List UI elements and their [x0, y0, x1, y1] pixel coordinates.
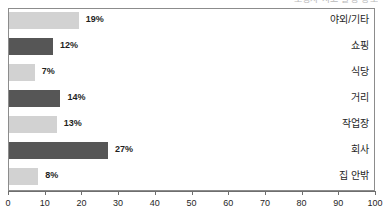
bar — [9, 38, 53, 55]
bar — [9, 142, 108, 159]
category-label: 쇼핑 — [351, 39, 369, 53]
x-tick-label: 20 — [76, 197, 86, 209]
x-tick — [155, 191, 156, 195]
category-label: 식당 — [351, 65, 369, 79]
x-tick — [45, 191, 46, 195]
bar-value-label: 19% — [86, 13, 104, 26]
x-tick — [228, 191, 229, 195]
category-label: 회사 — [351, 143, 369, 157]
x-tick — [265, 191, 266, 195]
bar — [9, 64, 35, 81]
x-tick — [302, 191, 303, 195]
x-tick-label: 100 — [367, 197, 382, 209]
x-tick — [8, 191, 9, 195]
chart-row: 27%회사 — [9, 139, 375, 165]
bar — [9, 168, 38, 185]
category-label: 작업장 — [342, 117, 369, 131]
bar-value-label: 13% — [64, 117, 82, 130]
bar-value-label: 27% — [115, 143, 133, 156]
x-tick — [192, 191, 193, 195]
bar-value-label: 7% — [42, 65, 55, 78]
x-tick — [375, 191, 376, 195]
horizontal-bar-chart: 보행자 사고 발생 장소 19%야외/기타12%쇼핑7%식당14%거리13%작업… — [0, 0, 386, 213]
category-label: 거리 — [351, 91, 369, 105]
x-tick-label: 50 — [186, 197, 196, 209]
x-tick-label: 90 — [333, 197, 343, 209]
chart-row: 14%거리 — [9, 87, 375, 113]
x-tick-label: 0 — [5, 197, 10, 209]
chart-row: 8%집 안밖 — [9, 165, 375, 191]
x-tick-label: 30 — [113, 197, 123, 209]
x-tick — [338, 191, 339, 195]
chart-row: 19%야외/기타 — [9, 9, 375, 35]
chart-row: 12%쇼핑 — [9, 35, 375, 61]
x-tick-label: 40 — [150, 197, 160, 209]
x-tick-label: 80 — [297, 197, 307, 209]
clipped-header-text: 보행자 사고 발생 장소 — [258, 0, 378, 6]
x-tick — [118, 191, 119, 195]
bar-value-label: 12% — [60, 39, 78, 52]
bar — [9, 116, 57, 133]
chart-row: 13%작업장 — [9, 113, 375, 139]
bar-rows: 19%야외/기타12%쇼핑7%식당14%거리13%작업장27%회사8%집 안밖 — [9, 9, 375, 191]
category-label: 집 안밖 — [339, 169, 369, 183]
x-tick-label: 70 — [260, 197, 270, 209]
bar-value-label: 14% — [67, 91, 85, 104]
x-tick-label: 60 — [223, 197, 233, 209]
category-label: 야외/기타 — [330, 13, 369, 27]
x-tick — [81, 191, 82, 195]
bar-value-label: 8% — [45, 169, 58, 182]
bar — [9, 12, 79, 29]
bar — [9, 90, 60, 107]
x-tick-label: 10 — [40, 197, 50, 209]
chart-row: 7%식당 — [9, 61, 375, 87]
